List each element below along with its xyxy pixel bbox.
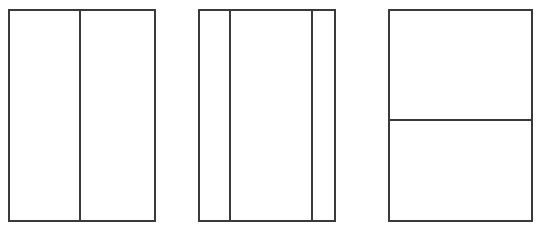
figure-3-divider-1 — [390, 119, 531, 121]
figure-2-divider-2 — [311, 11, 313, 220]
figure-2-divider-1 — [229, 11, 231, 220]
figure-canvas — [0, 0, 544, 232]
figure-1-divider-1 — [79, 11, 81, 220]
rectangle-split-into-3-vertical-parts — [198, 9, 336, 222]
rectangle-split-into-2-vertical-parts — [8, 9, 156, 222]
rectangle-split-into-2-horizontal-parts — [388, 9, 533, 222]
